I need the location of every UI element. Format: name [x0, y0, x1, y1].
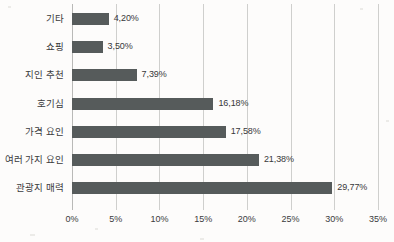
bar	[72, 126, 226, 138]
category-label: 호기심	[0, 95, 64, 113]
x-tick-label: 35%	[369, 213, 387, 225]
scan-speck	[8, 6, 11, 8]
category-label: 관광지 매력	[0, 179, 64, 197]
bar-value-label: 4,20%	[114, 12, 139, 24]
scan-speck	[200, 238, 204, 240]
bar-value-label: 29,77%	[337, 181, 367, 193]
x-tick-label: 0%	[65, 213, 78, 225]
plot-area: 4,20%3,50%7,39%16,18%17,58%21,38%29,77%	[72, 4, 378, 210]
category-label: 여러 가지 요인	[0, 151, 64, 169]
category-label: 지인 추천	[0, 66, 64, 84]
bar-row: 7,39%	[72, 66, 378, 84]
bar	[72, 13, 109, 25]
scan-speck	[95, 228, 98, 230]
scan-speck	[386, 120, 389, 122]
bar-chart: 4,20%3,50%7,39%16,18%17,58%21,38%29,77% …	[0, 0, 394, 242]
bar-row: 17,58%	[72, 123, 378, 141]
x-tick-label: 25%	[282, 213, 300, 225]
bar	[72, 41, 103, 53]
scan-speck	[30, 234, 35, 236]
bar-row: 3,50%	[72, 38, 378, 56]
category-label: 기타	[0, 10, 64, 28]
gridline-35	[378, 4, 379, 210]
bar-row: 21,38%	[72, 151, 378, 169]
bar-row: 4,20%	[72, 10, 378, 28]
bar-row: 16,18%	[72, 95, 378, 113]
x-tick-label: 30%	[325, 213, 343, 225]
x-tick-label: 20%	[238, 213, 256, 225]
bar-value-label: 21,38%	[264, 153, 294, 165]
bar-row: 29,77%	[72, 179, 378, 197]
bar	[72, 182, 332, 194]
bar	[72, 98, 213, 110]
bar-value-label: 3,50%	[108, 40, 133, 52]
category-label: 쇼핑	[0, 38, 64, 56]
x-tick-label: 5%	[109, 213, 122, 225]
bar	[72, 69, 137, 81]
bar	[72, 154, 259, 166]
bar-value-label: 17,58%	[231, 125, 261, 137]
bar-value-label: 7,39%	[142, 68, 167, 80]
x-tick-label: 10%	[150, 213, 168, 225]
scan-speck	[360, 8, 363, 10]
bar-value-label: 16,18%	[218, 97, 248, 109]
category-label: 가격 요인	[0, 123, 64, 141]
x-tick-label: 15%	[194, 213, 212, 225]
